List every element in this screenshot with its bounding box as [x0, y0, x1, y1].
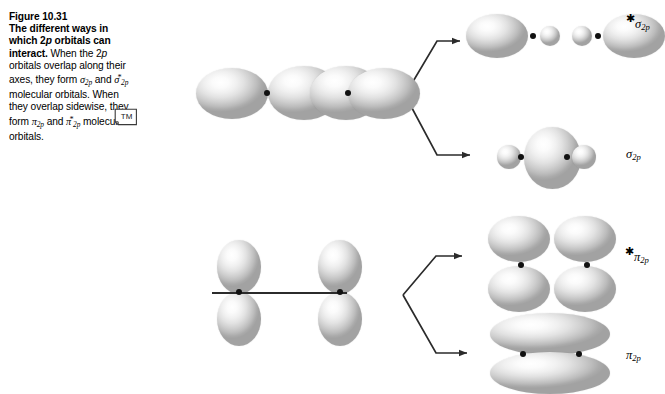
orbital-lobe [318, 240, 362, 294]
nucleus-dot [337, 289, 343, 295]
orbital-lobe [554, 216, 616, 262]
nucleus-dot [520, 351, 526, 357]
orbital-lobe [488, 216, 550, 262]
label-sigma-2p: σ2p [626, 147, 641, 162]
orbital-lobe [318, 292, 362, 346]
nucleus-dot [518, 262, 524, 268]
orbital-lobe [488, 266, 550, 312]
orbital-lobe [196, 68, 268, 119]
nucleus-dot [584, 262, 590, 268]
orbital-lobe [572, 145, 596, 169]
nucleus-dot [564, 154, 570, 160]
nucleus-dot [595, 33, 601, 39]
orbital-lobe [490, 313, 610, 355]
orbital-lobe [572, 26, 592, 46]
orbital-lobe [348, 68, 420, 119]
nucleus-dot [518, 154, 524, 160]
nucleus-dot [530, 33, 536, 39]
nucleus-dot [345, 90, 351, 96]
nucleus-dot [576, 351, 582, 357]
orbital-lobe [490, 352, 610, 394]
orbital-lobe [540, 26, 560, 46]
orbital-lobe [217, 240, 261, 294]
label-pi-2p: π2p [626, 348, 641, 363]
label-sigma-star-2p: ✱σ2p [631, 17, 650, 32]
nucleus-dot [236, 289, 242, 295]
orbital-lobe [466, 14, 528, 58]
nucleus-dot [264, 90, 270, 96]
orbital-lobe [554, 266, 616, 312]
label-pi-star-2p: ✱π2p [630, 250, 649, 265]
arrow-fork-bottom [403, 256, 467, 353]
orbital-lobe [217, 292, 261, 346]
internuclear-axis-line [212, 292, 347, 294]
